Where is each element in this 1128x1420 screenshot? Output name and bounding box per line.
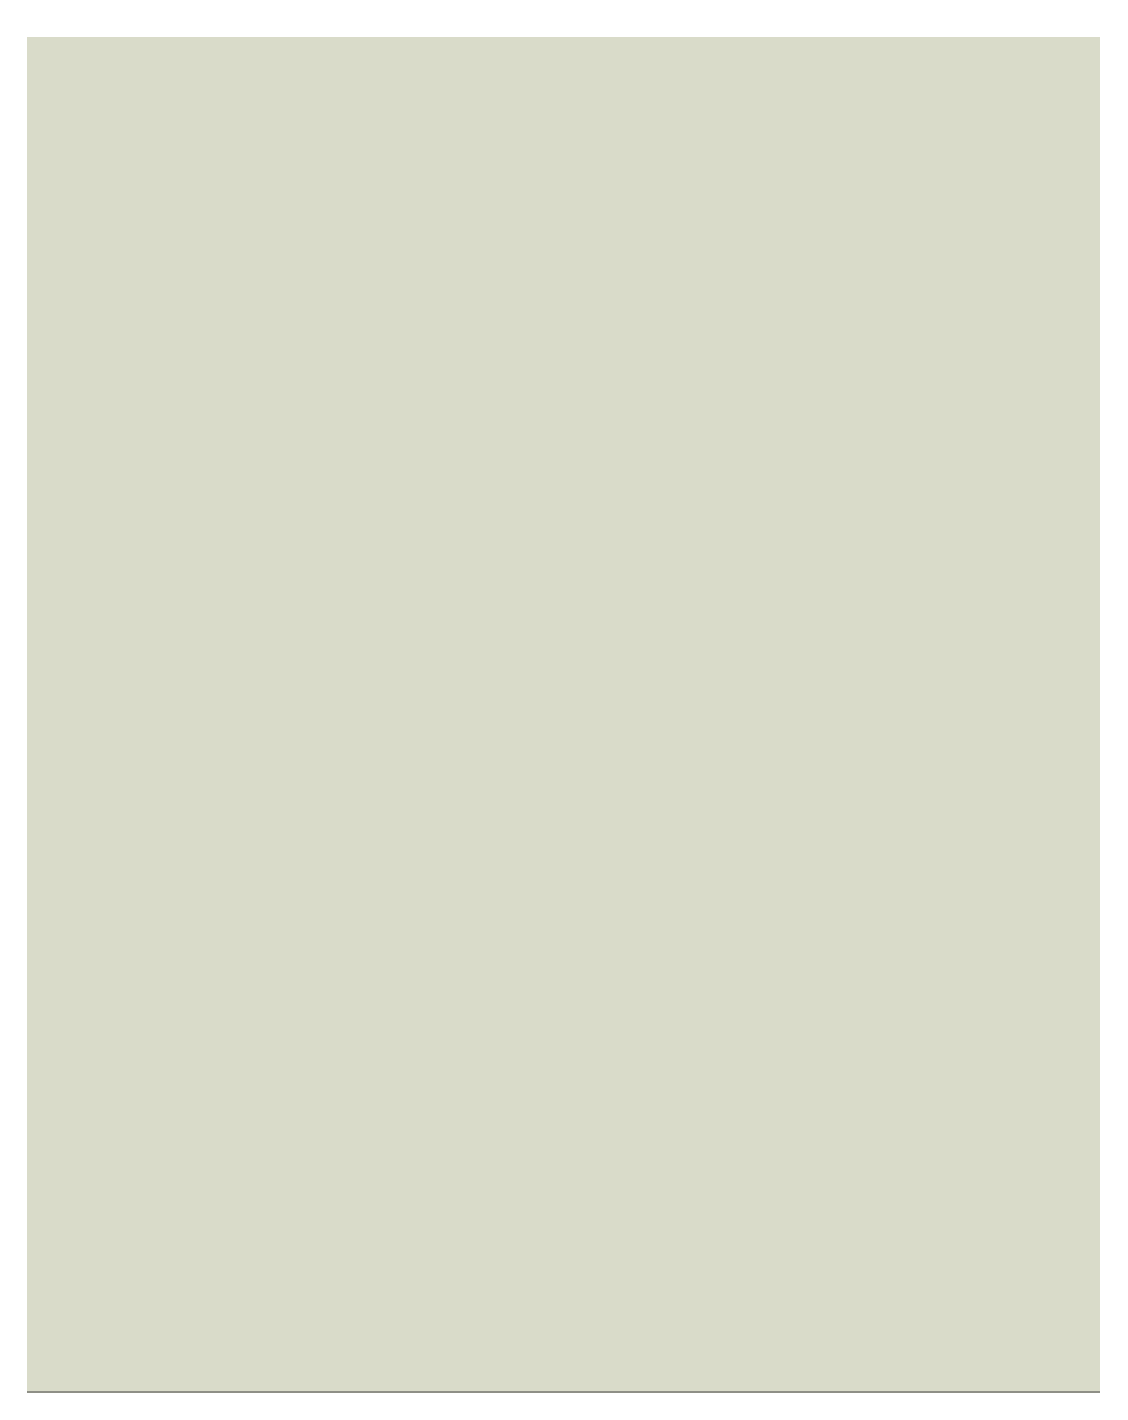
caption-title bbox=[40, 1192, 940, 1219]
net-investment-position-chart bbox=[0, 0, 1128, 1180]
figure-caption bbox=[40, 1192, 940, 1223]
